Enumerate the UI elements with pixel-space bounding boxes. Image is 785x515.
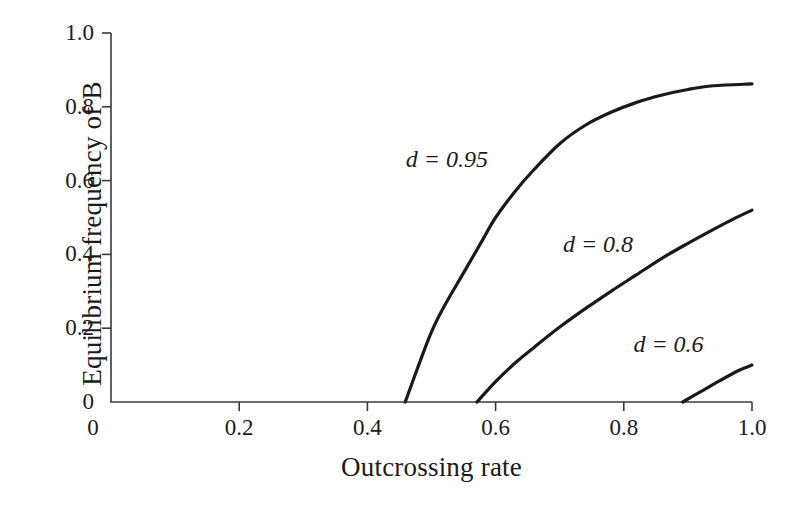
- curve-0.6: [683, 365, 752, 402]
- plot-area: [0, 0, 785, 515]
- chart-figure: Equilibrium frequency of B Outcrossing r…: [0, 0, 785, 515]
- data-curves: [405, 84, 752, 402]
- curve-0.95: [405, 84, 752, 402]
- axis-spines: [111, 33, 752, 402]
- curve-0.8: [477, 210, 752, 402]
- axes: [102, 33, 752, 411]
